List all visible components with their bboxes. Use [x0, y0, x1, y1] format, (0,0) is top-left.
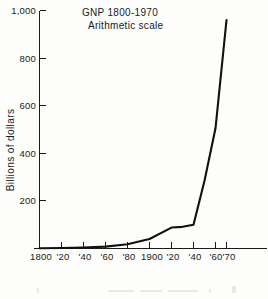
x-tick-label-1820: '20	[57, 251, 70, 262]
gnp-arithmetic-scale-figure: GNP 1800-1970 Arithmetic scale Billions …	[0, 0, 268, 299]
x-axis-tick-labels: 1800 '20 '40 '60 '80 1900 '20 '40 '60 '7…	[30, 251, 235, 262]
y-tick-label-800: 800	[20, 53, 36, 64]
y-tick-label-1000: 1,000	[11, 5, 36, 16]
page-bleed-artifacts	[37, 286, 236, 293]
x-tick-label-1940: '40	[189, 251, 202, 262]
x-tick-label-1840: '40	[79, 251, 92, 262]
x-tick-label-1960: '60	[210, 251, 223, 262]
chart-title-line2: Arithmetic scale	[88, 20, 164, 31]
y-tick-label-200: 200	[20, 195, 36, 206]
x-tick-label-1900: 1900	[141, 251, 163, 262]
y-axis-title: Billions of dollars	[5, 109, 16, 192]
y-tick-label-400: 400	[20, 148, 36, 159]
x-tick-label-1880: '80	[123, 251, 136, 262]
y-tick-label-600: 600	[20, 100, 36, 111]
x-tick-label-1800: 1800	[30, 251, 52, 262]
chart-title-line1: GNP 1800-1970	[82, 7, 158, 18]
chart-canvas: GNP 1800-1970 Arithmetic scale Billions …	[0, 0, 268, 299]
y-axis-ticks	[40, 11, 47, 201]
x-tick-label-1920: '20	[167, 251, 180, 262]
x-tick-label-1970: '70	[223, 251, 236, 262]
x-tick-label-1860: '60	[101, 251, 114, 262]
gnp-data-line	[40, 20, 227, 248]
